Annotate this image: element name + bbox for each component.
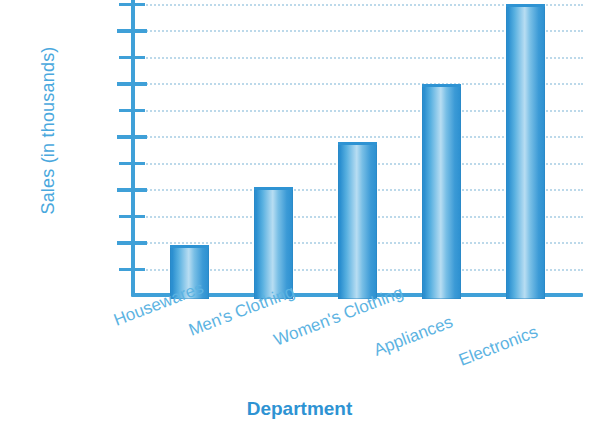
y-axis-tick <box>119 268 145 271</box>
y-axis-tick <box>117 241 147 245</box>
y-axis-tick <box>119 215 145 218</box>
bar-chart: Sales (in thousands) 120140160180200 Hou… <box>0 0 599 447</box>
bar-women-s-clothing <box>338 142 377 299</box>
y-axis-tick <box>117 29 147 33</box>
y-axis-tick <box>119 109 145 112</box>
y-axis-tick <box>117 188 147 192</box>
y-axis-title: Sales (in thousands) <box>38 21 59 241</box>
y-axis-tick <box>119 3 145 6</box>
x-axis-title: Department <box>0 398 599 420</box>
bar-electronics <box>506 4 545 299</box>
y-axis-tick <box>117 135 147 139</box>
y-axis-line <box>131 0 135 295</box>
x-tick-label: Electronics <box>456 322 541 370</box>
y-axis-tick <box>119 162 145 165</box>
x-tick-label: Appliances <box>371 312 456 360</box>
y-axis-tick <box>119 56 145 59</box>
plot-area: 120140160180200 HousewaresMen's Clothing… <box>131 0 583 299</box>
bar-appliances <box>422 84 461 299</box>
y-axis-tick <box>117 82 147 86</box>
